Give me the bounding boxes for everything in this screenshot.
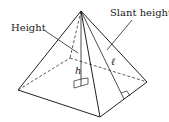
edge-front (81, 11, 100, 117)
slant-height-line (81, 11, 124, 99)
height-leader (44, 30, 78, 53)
h-variable: h (75, 65, 81, 76)
slant-height-label: Slant height (110, 7, 169, 18)
slant-height-leader (107, 20, 132, 50)
base-front-left (18, 90, 100, 117)
hidden-base-left (18, 58, 70, 90)
pyramid-diagram: Height Slant height h ℓ (0, 0, 169, 122)
height-label: Height (11, 22, 46, 33)
l-variable: ℓ (111, 56, 115, 67)
base-front-right (100, 82, 147, 117)
